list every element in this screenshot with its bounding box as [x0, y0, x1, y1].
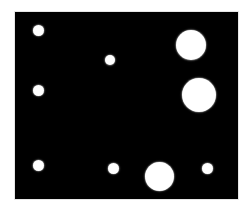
small-circle — [33, 160, 44, 171]
large-circle — [145, 162, 174, 191]
small-circle — [108, 163, 119, 174]
small-circle — [202, 163, 213, 174]
small-circle — [105, 55, 115, 65]
large-circle — [176, 30, 206, 60]
small-circle — [33, 25, 44, 36]
small-circle — [33, 85, 44, 96]
large-circle — [182, 78, 216, 112]
